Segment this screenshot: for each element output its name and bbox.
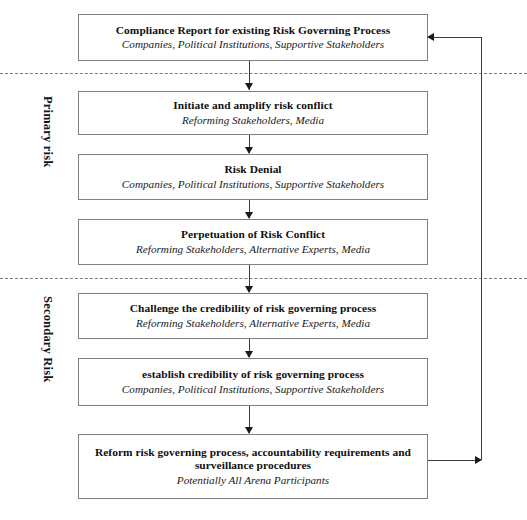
node-actors: Companies, Political Institutions, Suppo… <box>122 383 384 397</box>
node-initiate-amplify[interactable]: Initiate and amplify risk conflict Refor… <box>78 91 428 135</box>
node-actors: Reforming Stakeholders, Alternative Expe… <box>136 317 370 331</box>
connector-arrowhead-initiate <box>245 83 253 90</box>
feedback-loop-top-horizontal <box>432 37 482 38</box>
flowchart-canvas: Primary risk Secondary Risk Compliance R… <box>0 0 527 520</box>
node-title: Initiate and amplify risk conflict <box>173 99 332 113</box>
connector-arrowhead-challenge <box>245 286 253 293</box>
node-title: establish credibility of risk governing … <box>142 368 364 382</box>
feedback-loop-arrowhead-right <box>475 456 482 464</box>
node-title: Reform risk governing process, accountab… <box>85 446 421 473</box>
node-actors: Potentially All Arena Participants <box>177 474 329 488</box>
node-perpetuation[interactable]: Perpetuation of Risk Conflict Reforming … <box>78 219 428 265</box>
node-compliance-report[interactable]: Compliance Report for existing Risk Gove… <box>78 14 428 61</box>
node-risk-denial[interactable]: Risk Denial Companies, Political Institu… <box>78 154 428 200</box>
node-actors: Reforming Stakeholders, Alternative Expe… <box>136 243 370 257</box>
node-actors: Companies, Political Institutions, Suppo… <box>122 178 384 192</box>
node-actors: Companies, Political Institutions, Suppo… <box>122 38 384 52</box>
node-title: Risk Denial <box>224 163 281 177</box>
phase-divider-primary <box>0 73 527 74</box>
feedback-loop-arrowhead-left <box>427 33 434 41</box>
node-reform-process[interactable]: Reform risk governing process, accountab… <box>78 434 428 499</box>
phase-label-secondary: Secondary Risk <box>40 296 55 383</box>
connector-arrowhead-perpetuation <box>245 212 253 219</box>
feedback-loop-bottom-horizontal <box>428 460 476 461</box>
node-title: Challenge the credibility of risk govern… <box>130 302 376 316</box>
node-establish-credibility[interactable]: establish credibility of risk governing … <box>78 358 428 406</box>
phase-label-primary: Primary risk <box>40 96 55 167</box>
feedback-loop-vertical <box>481 37 482 460</box>
node-challenge-credibility[interactable]: Challenge the credibility of risk govern… <box>78 293 428 339</box>
phase-divider-secondary <box>0 278 527 279</box>
node-title: Perpetuation of Risk Conflict <box>181 228 325 242</box>
node-actors: Reforming Stakeholders, Media <box>182 114 324 128</box>
connector-arrowhead-reform <box>245 427 253 434</box>
node-title: Compliance Report for existing Risk Gove… <box>116 24 390 38</box>
connector-arrowhead-establish <box>245 351 253 358</box>
connector-arrowhead-denial <box>245 147 253 154</box>
